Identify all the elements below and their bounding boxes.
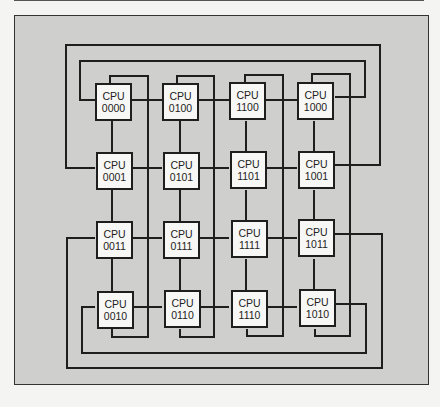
cpu-id: 1000 xyxy=(304,101,327,113)
cpu-node-0011: CPU 0011 xyxy=(96,221,133,259)
cpu-label: CPU xyxy=(104,298,126,310)
cpu-id: 1100 xyxy=(236,101,259,113)
cpu-node-1011: CPU 1011 xyxy=(298,219,335,257)
cpu-node-1001: CPU 1001 xyxy=(298,151,335,189)
cpu-node-1110: CPU 1110 xyxy=(231,290,268,328)
cpu-label: CPU xyxy=(103,159,125,171)
cpu-label: CPU xyxy=(306,296,328,308)
cpu-id: 1010 xyxy=(306,308,329,320)
cpu-id: 0011 xyxy=(103,240,126,252)
cpu-node-0111: CPU 0111 xyxy=(163,221,200,259)
cpu-id: 1111 xyxy=(239,239,260,251)
cpu-id: 0000 xyxy=(102,102,125,114)
cpu-id: 0101 xyxy=(170,171,193,183)
cpu-id: 0111 xyxy=(171,240,193,252)
cpu-label: CPU xyxy=(236,89,258,101)
cpu-node-1111: CPU 1111 xyxy=(231,220,268,258)
cpu-id: 1101 xyxy=(237,170,260,182)
cpu-label: CPU xyxy=(170,159,192,171)
cpu-label: CPU xyxy=(305,158,327,170)
cpu-label: CPU xyxy=(171,297,193,309)
cpu-label: CPU xyxy=(305,226,327,238)
cpu-node-0101: CPU 0101 xyxy=(163,152,200,190)
cpu-label: CPU xyxy=(304,89,326,101)
cpu-node-0110: CPU 0110 xyxy=(164,290,201,328)
cpu-id: 1011 xyxy=(305,238,328,250)
cpu-node-0010: CPU 0010 xyxy=(97,291,134,329)
cpu-node-0000: CPU 0000 xyxy=(95,83,132,121)
cpu-node-0100: CPU 0100 xyxy=(162,83,199,121)
cpu-id: 1110 xyxy=(239,309,261,321)
cpu-id: 0001 xyxy=(103,171,126,183)
cpu-node-1100: CPU 1100 xyxy=(229,82,266,120)
cpu-node-0001: CPU 0001 xyxy=(96,152,133,190)
interconnect-wires xyxy=(0,0,440,407)
cpu-id: 0010 xyxy=(104,310,127,322)
cpu-label: CPU xyxy=(237,158,259,170)
cpu-node-1000: CPU 1000 xyxy=(297,82,334,120)
cpu-node-1010: CPU 1010 xyxy=(299,289,336,327)
cpu-label: CPU xyxy=(169,90,191,102)
cpu-node-1101: CPU 1101 xyxy=(230,151,267,189)
cpu-id: 0110 xyxy=(171,309,194,321)
cpu-label: CPU xyxy=(238,297,260,309)
cpu-label: CPU xyxy=(103,228,125,240)
cpu-label: CPU xyxy=(170,228,192,240)
cpu-id: 1001 xyxy=(305,170,328,182)
cpu-label: CPU xyxy=(102,90,124,102)
cpu-label: CPU xyxy=(238,227,260,239)
cpu-id: 0100 xyxy=(169,102,192,114)
